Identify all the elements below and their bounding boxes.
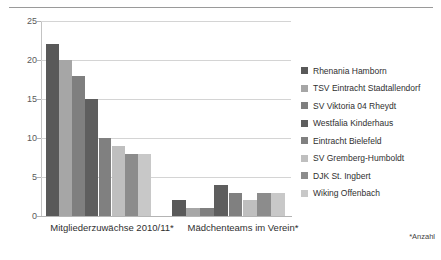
y-tick-label-10: 10 <box>3 134 37 143</box>
legend-label: SV Gremberg-Humboldt <box>313 153 404 163</box>
bar <box>257 193 271 216</box>
bar <box>243 200 257 216</box>
legend-item: Westfalia Kinderhaus <box>301 115 439 133</box>
legend-label: DJK St. Ingbert <box>313 171 371 181</box>
legend-swatch-icon <box>301 85 308 92</box>
legend-label: TSV Eintracht Stadtallendorf <box>313 83 420 93</box>
bar <box>138 154 151 216</box>
legend-label: Westfalia Kinderhaus <box>313 118 393 128</box>
bar <box>229 193 243 216</box>
bar-group-maedchenteams <box>172 21 285 216</box>
bar <box>172 200 186 216</box>
legend-swatch-icon <box>301 190 308 197</box>
footnote-anzahl: *Anzahl <box>409 232 435 241</box>
x-axis-category-label-1: Mädchenteams im Verein* <box>168 222 318 234</box>
plot-area <box>41 21 291 216</box>
legend-swatch-icon <box>301 155 308 162</box>
legend-item: SV Gremberg-Humboldt <box>301 150 439 168</box>
bar <box>200 208 214 216</box>
legend-label: SV Viktoria 04 Rheydt <box>313 101 396 111</box>
legend-label: Eintracht Bielefeld <box>313 136 382 146</box>
legend-item: Rhenania Hamborn <box>301 62 439 80</box>
x-axis-line <box>41 216 292 217</box>
legend-label: Wiking Offenbach <box>313 188 380 198</box>
y-tick-label-5: 5 <box>3 173 37 182</box>
legend-swatch-icon <box>301 137 308 144</box>
y-axis-tick-labels: 0510152025 <box>0 0 37 260</box>
bar <box>214 185 228 216</box>
legend-swatch-icon <box>301 102 308 109</box>
legend-label: Rhenania Hamborn <box>313 66 387 76</box>
bar-group-mitgliederzuwaechse <box>46 21 151 216</box>
y-tick-label-0: 0 <box>3 212 37 221</box>
bar <box>186 208 200 216</box>
legend-item: TSV Eintracht Stadtallendorf <box>301 80 439 98</box>
legend-item: DJK St. Ingbert <box>301 167 439 185</box>
y-tick-label-20: 20 <box>3 56 37 65</box>
bar-chart-figure: 0510152025 Mitgliederzuwächse 2010/11* M… <box>0 0 441 260</box>
y-tick-label-25: 25 <box>3 17 37 26</box>
y-tick-label-15: 15 <box>3 95 37 104</box>
legend-swatch-icon <box>301 67 308 74</box>
bar <box>99 138 112 216</box>
legend-item: SV Viktoria 04 Rheydt <box>301 97 439 115</box>
legend-swatch-icon <box>301 172 308 179</box>
bar <box>271 193 285 216</box>
legend-item: Eintracht Bielefeld <box>301 132 439 150</box>
bar <box>112 146 125 216</box>
legend-item: Wiking Offenbach <box>301 185 439 203</box>
bar <box>125 154 138 216</box>
legend-swatch-icon <box>301 120 308 127</box>
chart-legend: Rhenania HambornTSV Eintracht Stadtallen… <box>301 62 439 202</box>
bar <box>85 99 98 216</box>
bar <box>72 76 85 216</box>
bar <box>59 60 72 216</box>
bar <box>46 44 59 216</box>
